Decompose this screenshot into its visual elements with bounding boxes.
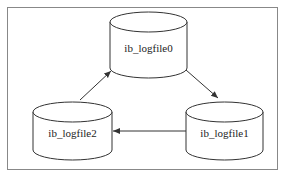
node-label: ib_logfile1 — [200, 127, 248, 139]
node-label: ib_logfile0 — [124, 42, 173, 54]
node-ib-logfile1: ib_logfile1 — [186, 102, 263, 160]
node-ib-logfile2: ib_logfile2 — [33, 102, 112, 160]
node-label: ib_logfile2 — [48, 127, 96, 139]
logfile-cycle-diagram: ib_logfile0 ib_logfile2 ib_logfile1 — [0, 0, 284, 178]
node-ib-logfile0: ib_logfile0 — [110, 12, 187, 78]
